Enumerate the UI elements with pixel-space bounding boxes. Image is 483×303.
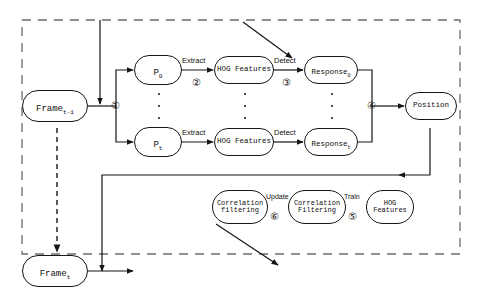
node-response-last-subscript: t xyxy=(347,145,350,151)
node-response-first-label: Response xyxy=(311,68,347,76)
ellipsis-dot xyxy=(331,105,333,107)
ellipsis-patches xyxy=(157,93,160,119)
ellipsis-dot xyxy=(331,117,333,119)
ellipsis-dot xyxy=(244,117,246,119)
node-hog-features-bottom-row: HOG Features xyxy=(214,128,274,156)
node-response-last-label: Response xyxy=(311,140,347,148)
edge-label-detect-bottom: Detect xyxy=(274,128,296,137)
node-hog-features-loop-label: HOG Features xyxy=(373,200,407,215)
node-patch-last-subscript: t xyxy=(159,145,163,152)
edge-label-extract-bottom: Extract xyxy=(182,128,205,137)
step-marker-3: ③ xyxy=(282,78,291,88)
node-patch-first-subscript: 0 xyxy=(159,73,163,80)
step-marker-4: ④ xyxy=(367,101,376,111)
ellipsis-dot xyxy=(158,105,160,107)
node-frame-previous: Framet-1 xyxy=(22,90,88,122)
node-position-label: Position xyxy=(413,102,449,110)
node-correlation-filtering-left-label: Correlation filtering xyxy=(217,200,263,215)
node-patch-last: Pt xyxy=(134,127,182,157)
node-hog-features-top-label: HOG Features xyxy=(217,66,271,74)
node-hog-features-loop: HOG Features xyxy=(366,190,414,224)
ellipsis-dot xyxy=(158,117,160,119)
step-marker-5: ⑤ xyxy=(348,212,357,222)
connector-position-to-hog-bottom-loop xyxy=(399,128,430,175)
connector-corrfilter-left-outgoing xyxy=(216,224,278,265)
node-response-last: Responset xyxy=(304,128,358,156)
ellipsis-dot xyxy=(244,93,246,95)
node-hog-features-bottom-row-label: HOG Features xyxy=(217,138,271,146)
edge-label-detect-top: Detect xyxy=(274,56,296,65)
node-frame-previous-subscript: t-1 xyxy=(63,109,74,116)
node-patch-first: P0 xyxy=(134,55,182,85)
edge-label-update: Update xyxy=(266,193,289,200)
node-frame-current-subscript: t xyxy=(67,274,71,281)
ellipsis-dot xyxy=(158,93,160,95)
flowchart-figure: Framet-1 Framet P0 Pt HOG Features HOG F… xyxy=(0,0,483,303)
node-hog-features-top: HOG Features xyxy=(214,56,274,84)
node-frame-previous-label: Frame xyxy=(36,104,63,114)
node-response-first-subscript: 0 xyxy=(347,73,350,79)
edge-label-extract-top: Extract xyxy=(182,56,205,65)
ellipsis-hog xyxy=(243,93,246,119)
step-marker-1: ① xyxy=(111,101,120,111)
step-marker-2: ② xyxy=(192,78,201,88)
step-marker-6: ⑥ xyxy=(270,212,279,222)
node-correlation-filtering-mid-label: Correlation Filtering xyxy=(294,200,340,215)
node-correlation-filtering-left: Correlation filtering xyxy=(212,190,268,224)
node-position: Position xyxy=(405,92,457,120)
node-correlation-filtering-mid: Correlation Filtering xyxy=(288,190,346,224)
node-frame-current-label: Frame xyxy=(40,269,67,279)
node-response-first: Response0 xyxy=(304,56,358,84)
connector-junction-to-patch-last xyxy=(116,106,133,142)
node-frame-current: Framet xyxy=(22,255,88,287)
connector-diagonal-to-detect xyxy=(243,22,292,58)
edge-label-train: Train xyxy=(344,193,360,200)
ellipsis-dot xyxy=(244,105,246,107)
ellipsis-dot xyxy=(331,93,333,95)
ellipsis-responses xyxy=(330,93,333,119)
